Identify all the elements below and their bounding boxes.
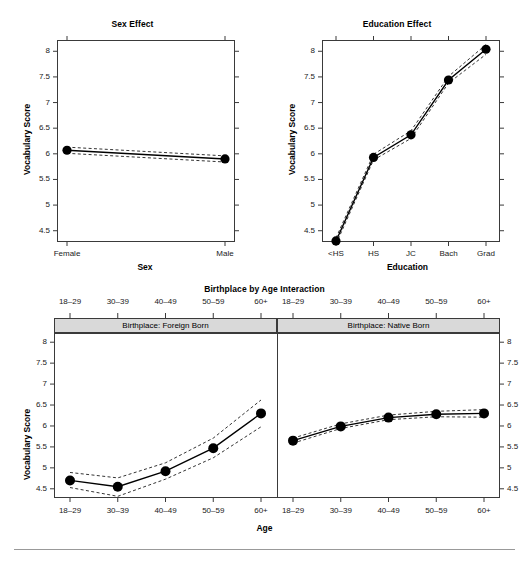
y-tick-label: 7: [288, 98, 315, 107]
y-tick-label: 5: [23, 200, 50, 209]
y-tick-label-right: 5: [507, 463, 529, 472]
y-tick-label-right: 6: [507, 421, 529, 430]
y-tick-label-right: 6.5: [507, 400, 529, 409]
y-tick-label: 7.5: [23, 72, 50, 81]
y-tick-label: 4.5: [20, 484, 47, 493]
y-tick-label: 7: [20, 379, 47, 388]
y-tick-label: 6: [288, 149, 315, 158]
y-tick-label: 8: [23, 46, 50, 55]
x-tick-label: Male: [195, 249, 255, 258]
footer-rule: [14, 549, 515, 550]
panel-interaction-canvas: [0, 280, 529, 561]
y-tick-label: 6.5: [20, 400, 47, 409]
y-tick-label: 7: [23, 98, 50, 107]
panel-sex-effect: Sex Effect Vocabulary Score Sex 4.555.56…: [0, 0, 265, 280]
y-tick-label: 5.5: [20, 442, 47, 451]
x-tick-label: 60+: [456, 506, 512, 515]
y-tick-label: 6: [23, 149, 50, 158]
y-tick-label: 6: [20, 421, 47, 430]
panel-sex-canvas: [0, 0, 265, 280]
y-tick-label: 6.5: [23, 123, 50, 132]
y-tick-label: 5: [288, 200, 315, 209]
x-tick-label: Grad: [456, 249, 516, 258]
y-tick-label: 8: [20, 337, 47, 346]
y-tick-label-right: 4.5: [507, 484, 529, 493]
y-tick-label: 8: [288, 46, 315, 55]
y-tick-label: 4.5: [288, 226, 315, 235]
panel-education-effect: Education Effect Vocabulary Score Educat…: [265, 0, 529, 280]
y-tick-label-right: 5.5: [507, 442, 529, 451]
panel-education-canvas: [265, 0, 529, 280]
y-tick-label: 5.5: [288, 174, 315, 183]
panel-interaction: Birthplace by Age Interaction Vocabulary…: [0, 280, 529, 561]
y-tick-label: 5.5: [23, 174, 50, 183]
x-tick-label: Female: [37, 249, 97, 258]
y-tick-label: 7.5: [288, 72, 315, 81]
x-tick-label-top: 60+: [456, 297, 512, 306]
y-tick-label-right: 7.5: [507, 358, 529, 367]
y-tick-label-right: 7: [507, 379, 529, 388]
y-tick-label-right: 8: [507, 337, 529, 346]
y-tick-label: 7.5: [20, 358, 47, 367]
y-tick-label: 5: [20, 463, 47, 472]
y-tick-label: 6.5: [288, 123, 315, 132]
y-tick-label: 4.5: [23, 226, 50, 235]
